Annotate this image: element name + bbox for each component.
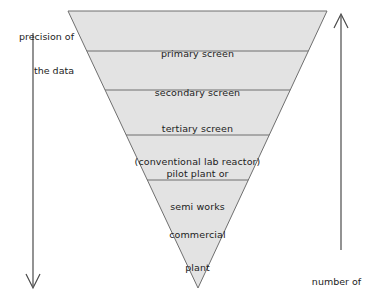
band-line: pilot plant or [11, 168, 373, 179]
precision-axis-label: precision of the data [0, 8, 74, 99]
band-line: commercial [11, 229, 373, 240]
axis-line: the data [0, 65, 74, 76]
axis-line: number of [300, 276, 373, 287]
axis-line: precision of [0, 31, 74, 42]
experiments-axis-label: number of experiments performed [300, 253, 373, 299]
funnel-diagram: primary screen secondary screen tertiary… [0, 0, 373, 299]
band-line: tertiary screen [11, 123, 373, 134]
